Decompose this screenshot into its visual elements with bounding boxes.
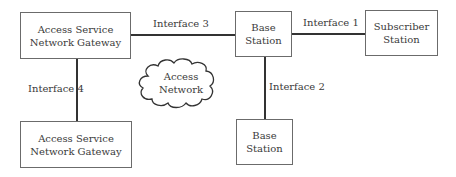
- node-label-line1: Subscriber: [374, 20, 430, 33]
- node-label-line1: Base: [252, 129, 276, 142]
- node-label-line2: Station: [246, 142, 283, 155]
- node-label-line1: Access Service: [38, 23, 114, 36]
- interface3-label: Interface 3: [153, 18, 209, 30]
- cloud-label-line1: Access: [150, 70, 212, 83]
- node-label-line2: Network Gateway: [30, 36, 121, 49]
- node-label-line1: Access Service: [38, 132, 114, 145]
- node-label-line2: Station: [245, 34, 282, 47]
- cloud-label-line2: Network: [150, 83, 212, 96]
- access-network-label: Access Network: [150, 70, 212, 96]
- interface2-label: Interface 2: [269, 81, 325, 93]
- node-label-line2: Network Gateway: [30, 145, 121, 158]
- subscriber-station-node: Subscriber Station: [365, 10, 438, 56]
- interface3-connector: [131, 34, 235, 36]
- asn-gateway-bottom-node: Access Service Network Gateway: [20, 121, 132, 168]
- interface2-connector: [264, 57, 266, 119]
- node-label-line2: Station: [383, 33, 420, 46]
- interface4-label: Interface 4: [28, 83, 84, 95]
- base-station-top-node: Base Station: [235, 11, 292, 57]
- interface1-label: Interface 1: [303, 17, 359, 29]
- asn-gateway-top-node: Access Service Network Gateway: [20, 12, 131, 59]
- node-label-line1: Base: [251, 21, 275, 34]
- base-station-bottom-node: Base Station: [236, 119, 293, 165]
- interface1-connector: [291, 33, 365, 35]
